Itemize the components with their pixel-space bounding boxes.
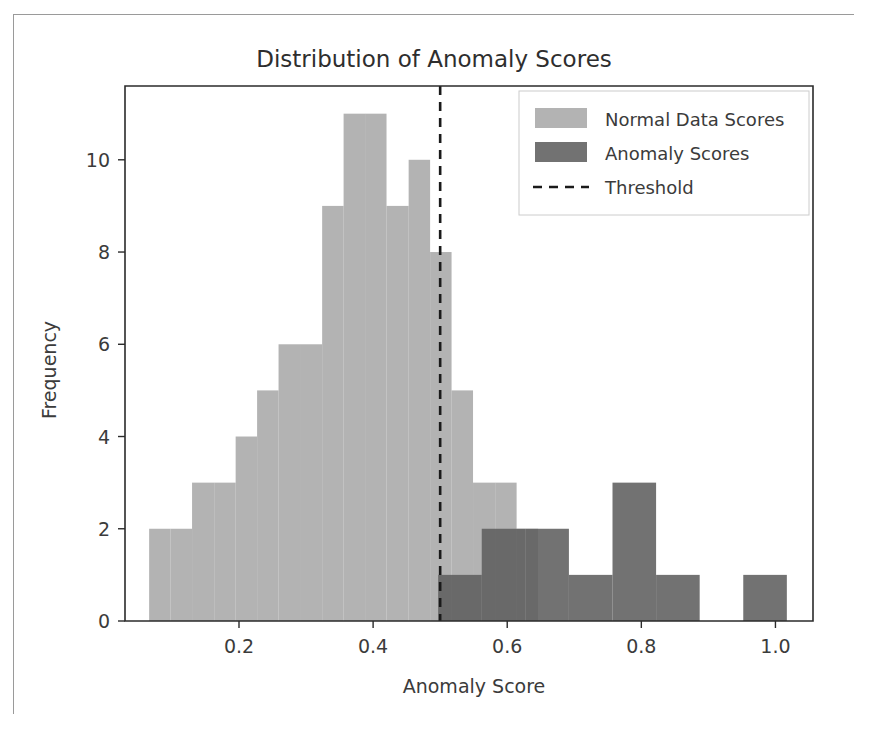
histogram-bar [656, 575, 700, 621]
histogram-bar [438, 575, 482, 621]
histogram-bar [569, 575, 613, 621]
histogram-bar [322, 206, 343, 621]
histogram-bar [236, 437, 257, 621]
x-tick-label: 0.2 [224, 635, 254, 657]
figure-page: 0.20.40.60.81.00246810 Distribution of A… [0, 0, 869, 730]
histogram-bar [525, 529, 569, 621]
figure-frame: 0.20.40.60.81.00246810 Distribution of A… [13, 14, 854, 714]
legend-label: Anomaly Scores [605, 143, 749, 164]
histogram-bar [482, 529, 526, 621]
histogram-bar [365, 114, 386, 621]
anomaly-score-histogram: 0.20.40.60.81.00246810 Distribution of A… [14, 15, 855, 715]
x-tick-label: 1.0 [760, 635, 790, 657]
y-tick-label: 8 [98, 241, 110, 263]
x-axis-label: Anomaly Score [403, 675, 546, 697]
histogram-bar [279, 344, 300, 621]
histogram-bar [409, 160, 430, 621]
histogram-bar [430, 252, 451, 621]
legend-label: Normal Data Scores [605, 109, 784, 130]
histogram-bar [300, 344, 322, 621]
y-tick-label: 2 [98, 518, 110, 540]
histogram-bar [214, 483, 235, 621]
page-title: Distribution of Anomaly Scores [256, 46, 612, 72]
x-tick-label: 0.4 [358, 635, 388, 657]
y-tick-label: 4 [98, 426, 110, 448]
legend-swatch [535, 108, 587, 128]
y-tick-label: 0 [98, 610, 110, 632]
histogram-bar [149, 529, 170, 621]
y-tick-label: 6 [98, 333, 110, 355]
histogram-bar [344, 114, 365, 621]
y-axis-label: Frequency [38, 321, 60, 419]
histogram-bar [743, 575, 787, 621]
legend[interactable]: Normal Data ScoresAnomaly ScoresThreshol… [519, 91, 809, 215]
x-tick-label: 0.8 [626, 635, 656, 657]
histogram-bar [171, 529, 192, 621]
histogram-bar [257, 390, 278, 621]
y-tick-label: 10 [86, 149, 110, 171]
x-tick-label: 0.6 [492, 635, 522, 657]
legend-label: Threshold [604, 177, 694, 198]
histogram-bar [192, 483, 214, 621]
histogram-bar [613, 483, 657, 621]
histogram-bar [387, 206, 409, 621]
legend-swatch [535, 142, 587, 162]
